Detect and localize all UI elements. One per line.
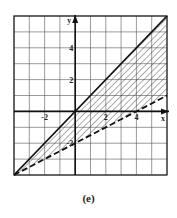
figure-caption: (e) bbox=[0, 192, 177, 204]
y-tick-label: 2 bbox=[69, 76, 73, 85]
x-axis-label: x bbox=[161, 114, 165, 123]
graph: xy-22442-2 bbox=[0, 0, 177, 218]
y-axis-label: y bbox=[67, 16, 71, 25]
y-tick-label: -2 bbox=[67, 139, 74, 148]
y-tick-label: 4 bbox=[69, 44, 73, 53]
x-tick-label: 4 bbox=[134, 113, 138, 122]
x-tick-label: 2 bbox=[104, 113, 108, 122]
x-tick-label: -2 bbox=[41, 113, 48, 122]
